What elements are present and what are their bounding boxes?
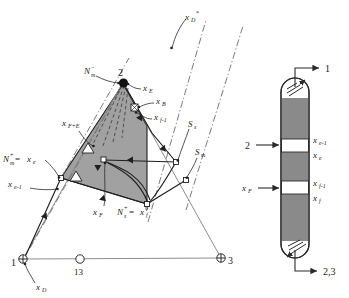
label-xF-plus-E: x F+E [61, 118, 80, 129]
label-Nm-plus-equals-xe: N m + = x e [2, 152, 36, 166]
label-xE: x E [142, 83, 153, 94]
svg-text:x: x [312, 178, 317, 188]
svg-text:+: + [10, 152, 14, 158]
vertex-label-3: 3 [228, 255, 233, 266]
svg-text:x: x [35, 282, 40, 292]
figure-canvas: 1 2 3 13 x D x D * x E x B x f-1 [0, 0, 349, 298]
vertex-marker-2 [119, 78, 128, 87]
svg-text:x: x [312, 193, 317, 203]
top-product-label: 1 [325, 63, 330, 74]
svg-text:f-1: f-1 [160, 117, 167, 123]
svg-text:=: = [129, 207, 134, 217]
svg-text:*: * [196, 10, 199, 16]
svg-text:m: m [201, 152, 206, 158]
stage-label-xf: x f [312, 193, 322, 204]
label-xD: x D [35, 282, 47, 293]
label-xf-minus-1: x f-1 [153, 112, 167, 123]
svg-text:N: N [83, 66, 91, 76]
vertex-label-2: 2 [118, 67, 123, 78]
vertex-marker-1 [19, 255, 27, 263]
svg-text:s: s [194, 124, 197, 130]
svg-text:B: B [162, 101, 166, 107]
svg-text:x: x [139, 207, 144, 217]
svg-text:x: x [92, 207, 97, 217]
label-Ss: S s [188, 119, 197, 130]
label-xD-star: x D * [184, 10, 199, 23]
svg-text:F+E: F+E [67, 123, 80, 129]
label-Ns-plus-equals-xf: N s + = x f [116, 205, 149, 219]
svg-text:x: x [7, 179, 12, 189]
azeotrope-marker-13 [76, 255, 84, 263]
svg-text:f-1: f-1 [319, 183, 326, 189]
column-schematic: 1 2,3 2 x F x e-1 x e [241, 63, 336, 277]
main-feed-label-sub: F [247, 188, 252, 194]
label-xB: x B [155, 96, 166, 107]
svg-text:s: s [124, 213, 127, 219]
svg-text:+: + [124, 205, 128, 211]
entrainer-feed-label: 2 [245, 140, 250, 151]
svg-text:F: F [98, 212, 103, 218]
entrainer-feed-stream: 2 [245, 140, 279, 151]
main-feed-stream: x F [241, 183, 279, 194]
svg-text:x: x [61, 118, 66, 128]
svg-text:D: D [190, 17, 196, 23]
column-stage-labels: x e-1 x e x f-1 x f [312, 135, 327, 204]
diagram-svg: 1 2 3 13 x D x D * x E x B x f-1 [0, 0, 349, 298]
main-feed-label: x [241, 183, 246, 193]
label-xe-minus-1: x e-1 [7, 179, 22, 190]
svg-text:N: N [2, 154, 10, 164]
svg-text:S: S [188, 119, 193, 129]
svg-text:−: − [91, 64, 95, 70]
vertex-marker-3 [217, 254, 225, 262]
svg-text:x: x [312, 135, 317, 145]
svg-text:e: e [319, 155, 322, 161]
column-packed-sections [282, 98, 309, 241]
svg-text:e-1: e-1 [319, 140, 327, 146]
label-Nm-minus: N m − [83, 64, 96, 78]
svg-text:x: x [184, 12, 189, 22]
svg-text:x: x [153, 112, 158, 122]
svg-text:N: N [116, 207, 124, 217]
stage-label-xe-minus-1: x e-1 [312, 135, 327, 146]
bottom-product-label: 2,3 [323, 266, 336, 277]
svg-text:S: S [195, 147, 200, 157]
label-xF: x F [92, 207, 103, 218]
svg-text:m: m [91, 72, 96, 78]
stage-label-xf-minus-1: x f-1 [312, 178, 326, 189]
vertex-label-1: 1 [11, 257, 16, 268]
svg-text:f: f [319, 198, 322, 204]
svg-text:x: x [155, 96, 160, 106]
svg-text:f: f [146, 212, 149, 218]
svg-text:=: = [15, 154, 20, 164]
svg-text:x: x [312, 150, 317, 160]
label-Sm: S m [195, 147, 206, 158]
stage-label-xe: x e [312, 150, 322, 161]
svg-text:E: E [148, 88, 153, 94]
svg-text:e: e [33, 159, 36, 165]
azeotrope-label-13: 13 [74, 267, 84, 277]
svg-text:x: x [26, 154, 31, 164]
svg-text:x: x [142, 83, 147, 93]
svg-text:e-1: e-1 [14, 184, 22, 190]
svg-text:D: D [41, 287, 47, 293]
